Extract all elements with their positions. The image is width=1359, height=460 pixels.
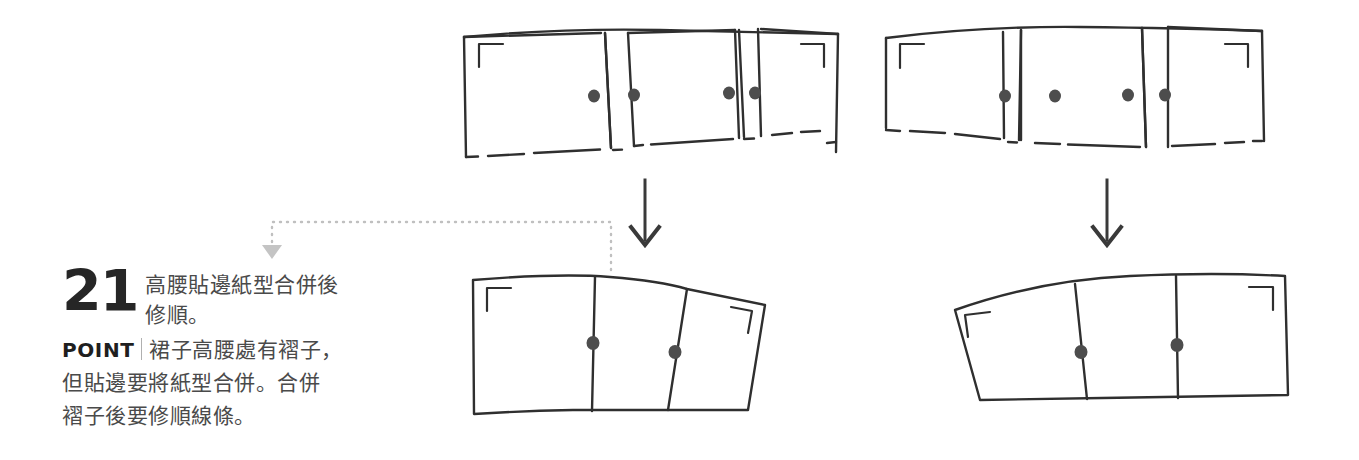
- waist-curve: [886, 27, 1262, 38]
- seam-line-1: [1075, 284, 1087, 399]
- point-body-line2: 但貼邊要將紙型合併。合併: [62, 367, 382, 400]
- dotted-callout-arrowhead: [262, 245, 282, 259]
- corner-mark-right: [1249, 287, 1273, 310]
- bottom-left-pattern: [473, 276, 765, 414]
- step-number: 21: [62, 264, 137, 318]
- dotted-callout-line: [272, 222, 611, 270]
- corner-mark-left: [479, 44, 503, 67]
- dotted-callout: [262, 222, 611, 270]
- corner-mark-right: [731, 307, 752, 333]
- instruction-block: 21 高腰貼邊紙型合併後 修順。 POINT 裙子高腰處有褶子， 但貼邊要將紙型…: [62, 268, 382, 433]
- piece-c-outline: [1168, 27, 1264, 146]
- piece-b-outline: [628, 30, 739, 146]
- step-row: 21 高腰貼邊紙型合併後 修順。: [62, 268, 382, 330]
- notch-markers: [588, 87, 761, 103]
- corner-mark-left: [900, 44, 924, 68]
- merged-outline: [473, 276, 765, 414]
- corner-mark-right: [1225, 44, 1248, 67]
- notch-markers: [1075, 338, 1184, 359]
- notch-markers: [587, 336, 682, 359]
- point-row: POINT 裙子高腰處有褶子，: [62, 334, 382, 367]
- piece-a-outline: [886, 38, 1000, 139]
- seam-line-2: [1176, 276, 1178, 398]
- top-right-pattern: [886, 27, 1264, 147]
- bottom-right-pattern: [955, 274, 1288, 400]
- pleat-wedge-2: [739, 29, 761, 139]
- arrow-left-down: [631, 180, 659, 245]
- point-divider: [141, 338, 142, 360]
- top-left-pattern: [464, 29, 838, 157]
- corner-mark-left: [487, 288, 511, 311]
- merged-outline: [955, 274, 1288, 400]
- arrow-right-down: [1093, 180, 1121, 245]
- step-description-line2: 修順。: [145, 303, 210, 327]
- step-description: 高腰貼邊紙型合併後 修順。: [145, 268, 339, 330]
- point-body-line1: 裙子高腰處有褶子，: [149, 334, 343, 367]
- step-description-line1: 高腰貼邊紙型合併後: [145, 273, 339, 297]
- corner-mark-right: [801, 44, 824, 67]
- pleat-wedge-2: [1142, 27, 1168, 147]
- piece-c-outline: [761, 29, 838, 152]
- point-body-line3: 褶子後要修順線條。: [62, 400, 382, 433]
- point-tag: POINT: [62, 338, 134, 362]
- pleat-wedge-1: [1003, 30, 1021, 143]
- piece-b-outline: [1021, 28, 1146, 147]
- corner-mark-left: [965, 312, 990, 337]
